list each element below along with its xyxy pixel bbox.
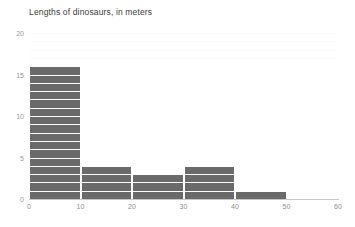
- bar: [132, 174, 184, 199]
- bar: [81, 166, 133, 199]
- y-tick-label: 0: [20, 196, 24, 203]
- x-axis-line: [29, 199, 339, 200]
- x-tick-label: 50: [283, 203, 291, 210]
- x-tick-label: 0: [27, 203, 31, 210]
- x-tick-label: 10: [77, 203, 85, 210]
- x-tick-label: 60: [334, 203, 342, 210]
- y-tick-label: 15: [16, 71, 24, 78]
- x-tick-label: 40: [231, 203, 239, 210]
- bar: [29, 66, 81, 199]
- chart-title: Lengths of dinosaurs, in meters: [29, 7, 152, 17]
- bar: [184, 166, 236, 199]
- y-tick-label: 10: [16, 113, 24, 120]
- histogram-figure: Lengths of dinosaurs, in meters 20151050…: [0, 0, 355, 227]
- x-axis: 0102030405060: [29, 203, 338, 217]
- x-tick-label: 30: [180, 203, 188, 210]
- x-tick-label: 20: [128, 203, 136, 210]
- plot-area: [29, 33, 338, 199]
- y-tick-label: 5: [20, 154, 24, 161]
- bars-layer: [29, 33, 338, 199]
- bar: [235, 191, 287, 199]
- y-axis: 20151050: [0, 33, 24, 199]
- y-tick-label: 20: [16, 30, 24, 37]
